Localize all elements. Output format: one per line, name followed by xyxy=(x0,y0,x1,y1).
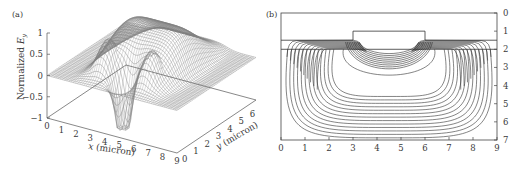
surface-plot-canvas: (a) 10.50−0.5−1012345678901234567 Normal… xyxy=(0,0,258,169)
panel-a-surface-plot: (a) 10.50−0.5−1012345678901234567 Normal… xyxy=(0,0,258,169)
z-tick-label: 1 xyxy=(38,28,43,38)
y-tick-label: 4 xyxy=(503,81,508,91)
y-tick-label: 0 xyxy=(182,154,187,164)
x-tick-label: 0 xyxy=(278,143,283,153)
x-tick-label: 2 xyxy=(326,143,331,153)
x-axis-label: x (micron) xyxy=(88,141,136,157)
panel-b-contour-plot: (b) 012345678901234567 xyxy=(258,0,516,169)
contour-lines xyxy=(286,40,492,138)
contour-frame xyxy=(281,13,497,140)
y-tick-label: 2 xyxy=(503,44,508,54)
x-tick-label: 9 xyxy=(174,156,179,166)
x-tick-label: 8 xyxy=(470,143,475,153)
y-tick-label: 6 xyxy=(250,109,255,119)
x-tick-label: 7 xyxy=(446,143,451,153)
x-tick-label: 2 xyxy=(73,129,78,139)
x-tick-label: 5 xyxy=(398,143,403,153)
x-tick-label: 4 xyxy=(374,143,379,153)
x-tick-label: 3 xyxy=(350,143,355,153)
contour-plot-canvas: (b) 012345678901234567 xyxy=(258,0,516,169)
panel-label-b: (b) xyxy=(266,10,277,19)
y-tick-label: 5 xyxy=(238,116,243,126)
x-tick-label: 9 xyxy=(494,143,499,153)
y-tick-label: 1 xyxy=(193,146,198,156)
y-tick-label: 6 xyxy=(503,117,508,127)
y-tick-label: 2 xyxy=(205,139,210,149)
x-tick-label: 7 xyxy=(145,148,150,158)
z-tick-label: −1 xyxy=(30,113,43,123)
panel-label-a: (a) xyxy=(12,10,23,19)
y-tick-label: 3 xyxy=(503,62,508,72)
z-axis-label: Normalized Ey xyxy=(16,33,28,100)
x-tick-label: 6 xyxy=(422,143,427,153)
z-tick-label: 0 xyxy=(38,71,43,81)
y-tick-label: 0 xyxy=(503,8,508,18)
x-tick-label: 0 xyxy=(44,121,49,131)
x-tick-label: 8 xyxy=(160,152,165,162)
y-tick-label: 7 xyxy=(503,135,508,145)
y-tick-label: 1 xyxy=(503,26,508,36)
x-tick-label: 1 xyxy=(59,125,64,135)
y-tick-label: 5 xyxy=(503,99,508,109)
z-tick-label: 0.5 xyxy=(29,49,43,59)
waveguide-structure xyxy=(281,31,497,49)
surface-mesh xyxy=(47,17,256,131)
x-tick-label: 1 xyxy=(302,143,307,153)
